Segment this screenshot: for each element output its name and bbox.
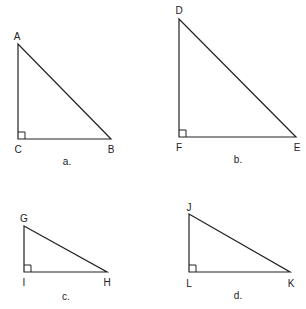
triangle-caption: b.	[234, 154, 242, 165]
vertex-label: B	[108, 144, 115, 155]
triangle-d-outline	[189, 214, 290, 272]
vertex-label: I	[23, 277, 26, 288]
triangle-a-outline	[18, 44, 111, 139]
vertex-label: G	[20, 213, 28, 224]
vertex-label: D	[175, 5, 182, 16]
triangle-caption: a.	[63, 156, 71, 167]
triangle-b: D F E b.	[175, 5, 300, 165]
vertex-label: C	[14, 144, 21, 155]
triangle-a: A C B a.	[14, 31, 115, 167]
vertex-label: L	[186, 278, 192, 289]
vertex-label: H	[103, 277, 110, 288]
triangle-b-outline	[179, 19, 296, 137]
vertex-label: K	[288, 278, 295, 289]
vertex-label: A	[14, 31, 21, 42]
triangle-caption: d.	[234, 290, 242, 301]
triangle-d: J L K d.	[186, 202, 294, 301]
vertex-label: E	[294, 142, 301, 153]
vertex-label: F	[176, 142, 182, 153]
triangles-diagram: A C B a. D F E b. G I H c. J L K d.	[0, 0, 306, 309]
right-angle-marker	[189, 265, 196, 272]
triangle-c: G I H c.	[20, 213, 111, 302]
triangle-caption: c.	[62, 291, 70, 302]
triangle-c-outline	[24, 226, 107, 272]
right-angle-marker	[18, 132, 25, 139]
right-angle-marker	[24, 265, 31, 272]
right-angle-marker	[179, 130, 186, 137]
vertex-label: J	[187, 202, 192, 213]
